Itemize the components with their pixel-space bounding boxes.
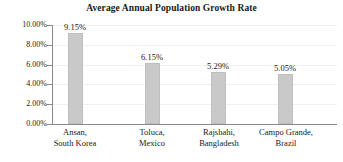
y-tick-2 (47, 104, 52, 105)
x-axis-label-campo-grande-line2: Brazil (243, 138, 329, 149)
y-tick-4 (47, 84, 52, 85)
gridline-8 (52, 45, 337, 46)
x-axis-label-campo-grande: Campo Grande, Brazil (243, 127, 329, 149)
gridline-4 (52, 84, 337, 85)
plot-area (52, 25, 337, 124)
y-axis-label-8: 8.00% (1, 41, 47, 49)
y-axis-label-6: 6.00% (1, 61, 47, 69)
y-axis-label-4: 4.00% (1, 80, 47, 88)
x-axis-label-ansan-line1: Ansan, (32, 127, 118, 138)
bar-chart: Average Annual Population Growth Rate 10… (0, 0, 343, 162)
bar-value-rajshahi: 5.29% (188, 62, 248, 71)
bar-value-ansan: 9.15% (45, 23, 105, 32)
bar-value-toluca: 6.15% (122, 53, 182, 62)
bar-value-campo-grande: 5.05% (255, 64, 315, 73)
y-axis-label-2: 2.00% (1, 100, 47, 108)
bar-rajshahi[interactable] (211, 72, 226, 124)
x-axis-label-ansan-line2: South Korea (32, 138, 118, 149)
x-axis-label-ansan: Ansan, South Korea (32, 127, 118, 149)
gridline-2 (52, 104, 337, 105)
y-tick-0 (47, 124, 52, 125)
y-tick-6 (47, 65, 52, 66)
x-axis-label-campo-grande-line1: Campo Grande, (243, 127, 329, 138)
chart-title: Average Annual Population Growth Rate (0, 2, 343, 14)
bar-ansan[interactable] (68, 33, 83, 124)
bar-campo-grande[interactable] (278, 74, 293, 124)
y-axis-label-10: 10.00% (1, 21, 47, 29)
bar-toluca[interactable] (145, 63, 160, 124)
y-tick-8 (47, 45, 52, 46)
x-axis-line (52, 124, 337, 125)
y-axis-line (52, 25, 53, 125)
